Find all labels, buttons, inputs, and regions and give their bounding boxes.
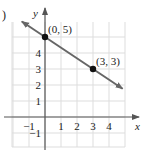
y-tick-label: 4 — [36, 47, 42, 59]
y-tick-label: 2 — [36, 79, 42, 91]
y-axis-label: y — [32, 7, 38, 19]
x-tick-label: 1 — [58, 120, 64, 132]
x-axis-label: x — [134, 120, 140, 132]
y-tick-label: −1 — [29, 127, 41, 139]
coordinate-plane: xy −11234−11234 (0, 5)(3, 3) — [0, 0, 147, 156]
point-label: (0, 5) — [48, 23, 72, 36]
point-label: (3, 3) — [96, 55, 120, 68]
y-tick-label: 3 — [36, 63, 42, 75]
x-tick-label: 3 — [90, 120, 96, 132]
x-tick-label: 2 — [74, 120, 80, 132]
y-tick-label: 1 — [36, 95, 42, 107]
x-tick-label: 4 — [106, 120, 112, 132]
